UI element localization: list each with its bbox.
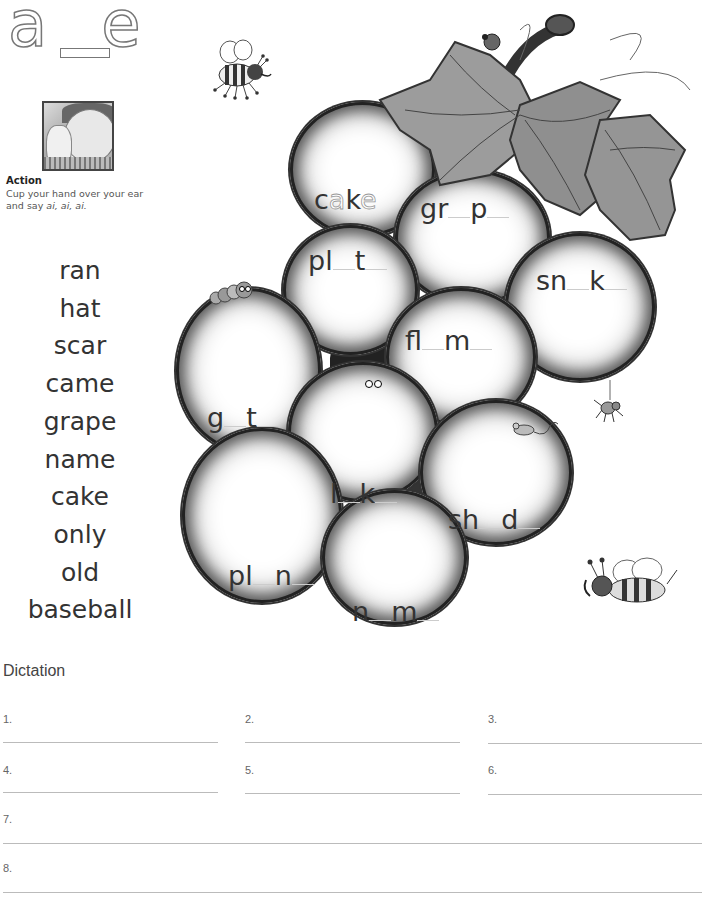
grape-word-lake: lk bbox=[330, 478, 397, 509]
dictation-number: 7. bbox=[3, 813, 12, 825]
dictation-number: 5. bbox=[245, 764, 254, 776]
dictation-number: 3. bbox=[488, 713, 497, 725]
dictation-line-1[interactable] bbox=[3, 742, 218, 743]
dictation-line-2[interactable] bbox=[245, 742, 460, 743]
spider-illustration bbox=[590, 380, 630, 425]
digraph-underscore bbox=[60, 48, 110, 58]
word-list-item: baseball bbox=[0, 591, 160, 629]
grape-word-shade: shd bbox=[448, 504, 540, 535]
word-list: ran hat scar came grape name cake only o… bbox=[0, 252, 160, 629]
dictation-line-8[interactable] bbox=[3, 892, 702, 893]
dictation-number: 2. bbox=[245, 713, 254, 725]
grape-word-name: nm bbox=[352, 596, 439, 627]
dictation-number: 4. bbox=[3, 764, 12, 776]
word-list-item: grape bbox=[0, 403, 160, 441]
dictation-line-4[interactable] bbox=[3, 792, 218, 793]
word-list-item: came bbox=[0, 365, 160, 403]
action-title: Action bbox=[6, 175, 42, 186]
word-list-item: hat bbox=[0, 290, 160, 328]
caterpillar-illustration bbox=[208, 278, 258, 308]
bee-illustration-bottom bbox=[572, 550, 682, 620]
action-instructions: Cup your hand over your ear and say ai, … bbox=[6, 188, 166, 212]
word-list-item: cake bbox=[0, 478, 160, 516]
grape-word-gate: gt bbox=[207, 402, 279, 433]
dictation-title: Dictation bbox=[3, 662, 65, 680]
dictation-line-6[interactable] bbox=[488, 794, 702, 795]
word-list-item: name bbox=[0, 441, 160, 479]
dictation-number: 1. bbox=[3, 713, 12, 725]
grape-word-snake: snk bbox=[536, 265, 627, 296]
word-list-item: scar bbox=[0, 327, 160, 365]
word-list-item: old bbox=[0, 554, 160, 592]
grape-word-flame: flm bbox=[405, 325, 492, 356]
word-list-item: ran bbox=[0, 252, 160, 290]
dictation-number: 6. bbox=[488, 764, 497, 776]
mouse-illustration bbox=[510, 418, 570, 442]
dictation-number: 8. bbox=[3, 862, 12, 874]
dictation-line-5[interactable] bbox=[245, 793, 460, 794]
peeking-eyes-icon bbox=[365, 373, 382, 392]
bee-illustration-top bbox=[205, 38, 275, 108]
grape-word-cake: cake bbox=[314, 184, 377, 215]
dictation-line-7[interactable] bbox=[3, 843, 702, 844]
dictation-line-3[interactable] bbox=[488, 743, 702, 744]
digraph-letter-a: a bbox=[8, 0, 49, 61]
grape-leaves-illustration bbox=[370, 0, 702, 250]
word-list-item: only bbox=[0, 516, 160, 554]
grape-word-plane: pln bbox=[228, 560, 314, 591]
action-picture bbox=[42, 101, 114, 171]
